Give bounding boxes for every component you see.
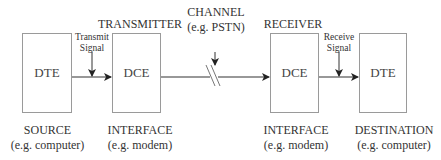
channel-title: CHANNEL [186,5,246,20]
destination-dte-label: DTE [370,65,395,81]
transmitter-dce-box: DCE [112,33,161,113]
communication-diagram: DTE DCE DCE DTE TRANSMITTER RECEIVER CHA… [0,0,441,160]
receiver-heading: RECEIVER [262,17,324,32]
receive-signal-line1: Receive [318,32,360,43]
transmit-signal-line1: Transmit [70,32,114,43]
source-dte-box: DTE [22,33,72,113]
transmit-signal-line2: Signal [70,43,114,54]
transmitter-heading: TRANSMITTER [98,17,180,32]
receiver-dce-label: DCE [282,65,308,81]
destination-subtitle: (e.g. computer) [347,138,441,153]
transmitter-dce-label: DCE [124,65,150,81]
source-dte-label: DTE [34,65,59,81]
source-title: SOURCE [5,123,90,138]
transmitter-interface-title: INTERFACE [102,123,178,138]
channel-subtitle: (e.g. PSTN) [180,20,252,35]
receiver-dce-box: DCE [270,33,319,113]
transmitter-interface-subtitle: (e.g. modem) [102,138,178,153]
receiver-interface-subtitle: (e.g. modem) [258,138,334,153]
receiver-interface-title: INTERFACE [258,123,334,138]
destination-dte-box: DTE [359,33,407,113]
source-subtitle: (e.g. computer) [5,138,90,153]
receive-signal-line2: Signal [318,43,360,54]
destination-title: DESTINATION [347,123,441,138]
